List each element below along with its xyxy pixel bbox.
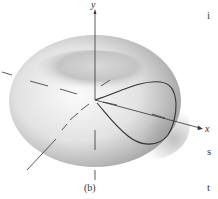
torus-diagram [0,0,218,199]
figure-panel: y x (b) [0,0,218,199]
y-axis-label: y [91,0,95,10]
x-axis-label: x [205,124,209,134]
edge-text-char: i [207,10,210,21]
torus-shadow [110,90,190,160]
torus-hole [37,50,147,90]
edge-text-char: t [207,182,210,193]
x-arrow-icon [198,126,204,131]
edge-text-char: s [207,146,211,157]
panel-caption: (b) [84,183,96,193]
